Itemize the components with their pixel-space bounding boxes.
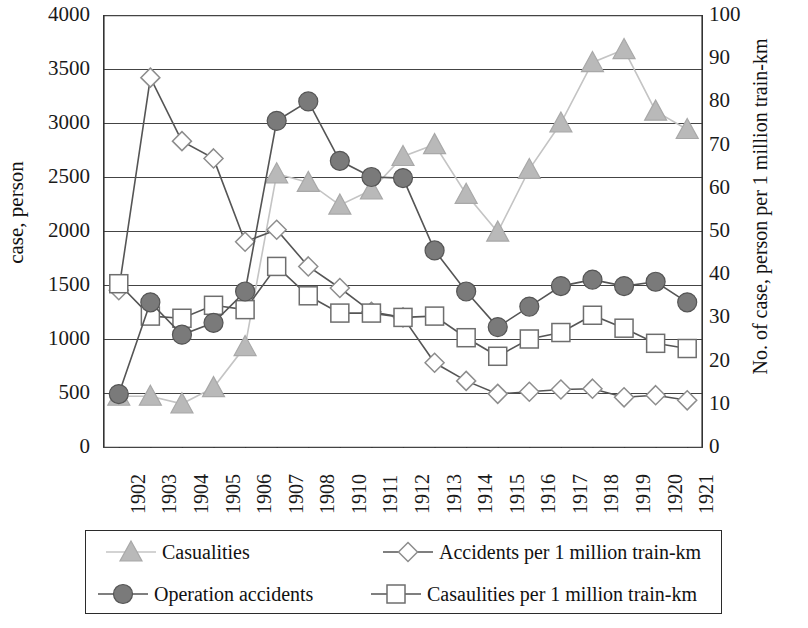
data-point-circle	[362, 168, 381, 187]
x-tick-label: 1911	[380, 475, 400, 514]
left-tick-label: 1500	[48, 274, 90, 295]
data-point-triangle	[139, 385, 161, 405]
data-point-square	[299, 287, 317, 305]
data-point-diamond	[236, 232, 255, 251]
x-tick-label: 1906	[254, 474, 274, 514]
x-tick-label: 1902	[128, 474, 148, 514]
legend-item-label: Casaulities per 1 million train-km	[423, 583, 697, 606]
data-point-square	[173, 309, 191, 327]
right-tick-label: 60	[709, 177, 730, 198]
data-point-square	[489, 347, 507, 365]
series-line	[119, 78, 687, 401]
data-point-triangle	[297, 171, 319, 191]
data-point-triangle	[234, 336, 256, 356]
x-axis-tick-labels: 1902190319041905190619071908191019111912…	[103, 452, 703, 522]
chart-figure: case, person No. of case, person per 1 m…	[0, 0, 808, 628]
legend-item[interactable]: Accidents per 1 million train-km	[381, 531, 701, 573]
data-point-circle	[551, 277, 570, 296]
legend-item[interactable]: Casaulities per 1 million train-km	[369, 573, 697, 615]
x-tick-label: 1903	[159, 474, 179, 514]
right-tick-label: 30	[709, 306, 730, 327]
left-tick-label: 4000	[48, 4, 90, 25]
data-point-circle	[299, 92, 318, 111]
data-point-triangle	[676, 118, 698, 138]
series-line	[119, 50, 687, 404]
x-tick-label: 1916	[538, 474, 558, 514]
data-point-diamond	[551, 380, 570, 399]
data-point-square	[394, 308, 412, 326]
data-point-square	[205, 296, 223, 314]
data-point-square	[236, 301, 254, 319]
diamond-marker-icon	[381, 538, 435, 566]
data-point-diamond	[646, 386, 665, 405]
data-point-circle	[678, 293, 697, 312]
right-tick-label: 50	[709, 220, 730, 241]
data-point-triangle	[424, 134, 446, 154]
series-square	[110, 257, 696, 365]
data-point-square	[615, 319, 633, 337]
x-tick-label: 1917	[570, 474, 590, 514]
x-tick-label: 1910	[349, 474, 369, 514]
data-point-triangle	[392, 145, 414, 165]
data-point-circle	[236, 282, 255, 301]
right-tick-label: 100	[709, 4, 741, 25]
data-point-triangle	[645, 100, 667, 120]
data-point-diamond	[399, 543, 418, 562]
left-axis-title: case, person	[4, 113, 29, 313]
data-point-diamond	[583, 379, 602, 398]
data-point-diamond	[172, 132, 191, 151]
x-tick-label: 1921	[696, 474, 716, 514]
data-point-square	[362, 304, 380, 322]
legend-item-label: Accidents per 1 million train-km	[435, 541, 701, 564]
legend-item[interactable]: Casualities	[104, 531, 250, 573]
data-point-triangle	[329, 194, 351, 214]
x-tick-label: 1905	[223, 474, 243, 514]
data-point-circle	[615, 277, 634, 296]
chart-canvas	[103, 15, 703, 448]
series-triangle	[108, 39, 698, 413]
data-point-circle	[520, 297, 539, 316]
right-tick-label: 80	[709, 90, 730, 111]
circle-marker-icon	[96, 580, 150, 608]
data-point-triangle	[203, 377, 225, 397]
data-point-square	[387, 585, 405, 603]
data-point-triangle	[581, 52, 603, 72]
data-point-circle	[425, 241, 444, 260]
left-tick-label: 2000	[48, 220, 90, 241]
legend-item[interactable]: Operation accidents	[96, 573, 313, 615]
data-point-square	[678, 340, 696, 358]
right-tick-label: 10	[709, 393, 730, 414]
series-diamond	[109, 68, 696, 410]
data-point-diamond	[615, 388, 634, 407]
data-point-circle	[204, 313, 223, 332]
right-tick-label: 90	[709, 47, 730, 68]
left-tick-label: 1000	[48, 328, 90, 349]
data-point-diamond	[141, 68, 160, 87]
data-point-diamond	[520, 382, 539, 401]
left-tick-label: 2500	[48, 166, 90, 187]
data-point-triangle	[518, 158, 540, 178]
left-tick-label: 3000	[48, 112, 90, 133]
data-point-square	[268, 257, 286, 275]
data-point-triangle	[171, 393, 193, 413]
data-point-circle	[141, 293, 160, 312]
plot-area	[103, 15, 703, 447]
data-point-circle	[109, 385, 128, 404]
x-tick-label: 1907	[286, 474, 306, 514]
data-point-square	[647, 334, 665, 352]
series-circle	[109, 92, 696, 404]
data-point-square	[457, 329, 475, 347]
data-point-square	[331, 304, 349, 322]
left-tick-label: 3500	[48, 58, 90, 79]
chart-legend: CasualitiesAccidents per 1 million train…	[85, 530, 722, 614]
data-point-circle	[267, 111, 286, 130]
x-tick-label: 1920	[665, 474, 685, 514]
data-point-diamond	[425, 353, 444, 372]
data-point-circle	[457, 282, 476, 301]
data-point-diamond	[330, 279, 349, 298]
data-point-triangle	[613, 39, 635, 59]
data-point-triangle	[550, 112, 572, 132]
data-point-square	[552, 324, 570, 342]
data-point-circle	[646, 272, 665, 291]
data-point-circle	[583, 270, 602, 289]
